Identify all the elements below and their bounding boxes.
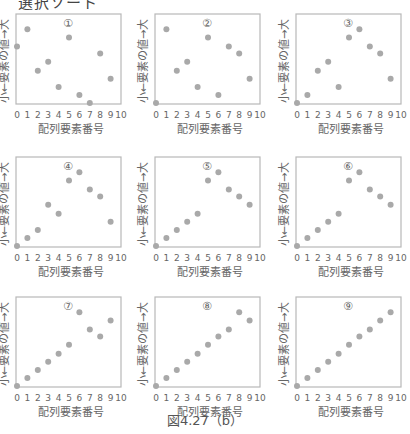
panel-number-label: ⑨ <box>343 300 353 313</box>
figure-caption: 図4.27（b） <box>0 410 410 429</box>
x-tick-label: 6 <box>357 393 363 403</box>
data-point <box>336 351 342 357</box>
x-tick-label: 2 <box>315 393 321 403</box>
x-tick-label: 9 <box>388 393 394 403</box>
data-point <box>346 342 352 348</box>
data-point <box>356 334 362 340</box>
data-point <box>377 317 383 323</box>
scatter-chart-9: ⑨012345678910配列要素番号小←要素の値→大 <box>0 0 135 140</box>
data-point <box>388 309 394 315</box>
data-point <box>367 326 373 332</box>
x-tick-label: 0 <box>294 393 300 403</box>
x-tick-label: 10 <box>395 393 407 403</box>
data-point <box>294 383 300 389</box>
data-point <box>325 359 331 365</box>
x-tick-label: 1 <box>305 393 311 403</box>
x-tick-label: 4 <box>336 393 342 403</box>
data-point <box>315 367 321 373</box>
x-tick-label: 8 <box>377 393 383 403</box>
x-tick-label: 5 <box>346 393 352 403</box>
x-tick-label: 3 <box>325 393 331 403</box>
data-point <box>304 375 310 381</box>
x-tick-label: 7 <box>367 393 373 403</box>
y-axis-label: 小←要素の値→大 <box>277 302 291 386</box>
